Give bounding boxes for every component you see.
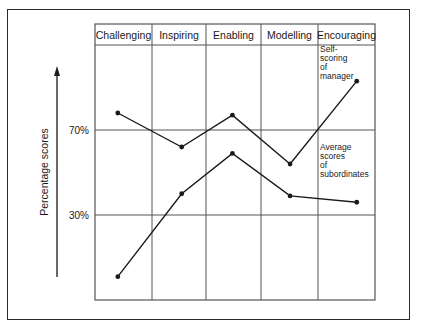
y-axis-label: Percentage scores	[38, 128, 50, 216]
y-tick-label-70: 70%	[69, 125, 89, 136]
column-header-modelling: Modelling	[267, 29, 312, 41]
data-point	[354, 200, 359, 205]
data-point	[115, 111, 120, 116]
data-point	[230, 113, 235, 118]
data-point	[354, 79, 359, 84]
data-point	[179, 145, 184, 150]
series-label-subordinates: subordinates	[320, 169, 369, 179]
column-header-inspiring: Inspiring	[159, 29, 199, 41]
y-tick-label-30: 30%	[69, 210, 89, 221]
data-point	[288, 193, 293, 198]
line-chart: ChallengingInspiringEnablingModellingEnc…	[0, 0, 421, 333]
data-point	[179, 191, 184, 196]
column-header-challenging: Challenging	[96, 29, 152, 41]
data-point	[288, 162, 293, 167]
series-label-manager: manager	[320, 71, 354, 81]
table-border	[95, 24, 375, 300]
data-point	[115, 274, 120, 279]
arrow-up-icon	[54, 66, 60, 76]
column-header-enabling: Enabling	[213, 29, 254, 41]
data-point	[230, 151, 235, 156]
column-header-encouraging: Encouraging	[317, 29, 376, 41]
